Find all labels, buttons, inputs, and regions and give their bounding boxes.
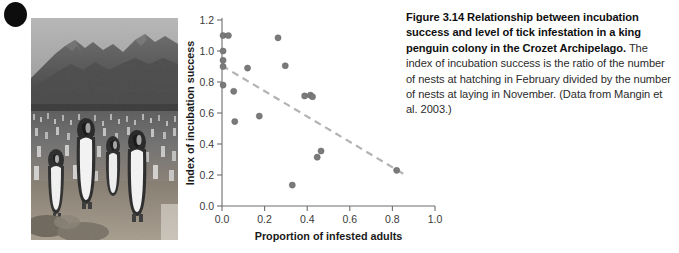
y-tick-label: 1.2 [199,14,214,26]
data-point [225,32,231,38]
data-point [309,94,315,100]
data-point [220,48,226,54]
x-tick-label: 0.8 [385,213,400,225]
x-axis-title: Proportion of infested adults [255,230,403,242]
y-tick-label: 0.8 [199,76,214,88]
black-dot-icon [4,2,27,27]
y-tick-label: 0.2 [199,169,214,181]
data-point [231,88,237,94]
data-point [220,82,226,88]
data-point [244,65,250,71]
x-tick-label: 1.0 [428,213,443,225]
data-point [289,182,295,188]
data-point [282,63,288,69]
king-penguin-colony-photo [31,18,178,240]
y-tick-label: 0.6 [199,107,214,119]
y-tick-label: 1.0 [199,45,214,57]
trend-line [222,66,404,175]
x-tick-label: 0.4 [300,213,315,225]
scatter-plot-figure: 0.00.20.40.60.81.01.20.00.20.40.60.81.0P… [182,6,444,246]
x-tick-label: 0.2 [257,213,272,225]
chart-axes [222,18,435,206]
data-point [220,63,226,69]
data-point [318,148,324,154]
y-axis-title: Index of incubation success [184,41,196,186]
x-tick-label: 0.6 [342,213,357,225]
x-tick-label: 0.0 [215,213,230,225]
data-point [256,113,262,119]
data-point [314,154,320,160]
data-point [220,57,226,63]
figure-caption-lead: Figure 3.14 Relationship between incubat… [406,11,641,54]
data-point [394,167,400,173]
data-point [232,118,238,124]
chart-plot-area: 0.00.20.40.60.81.01.20.00.20.40.60.81.0P… [184,14,442,242]
data-point [275,35,281,41]
y-tick-label: 0.0 [199,200,214,212]
figure-caption: Figure 3.14 Relationship between incubat… [406,10,674,118]
data-point [302,93,308,99]
y-tick-label: 0.4 [199,138,214,150]
